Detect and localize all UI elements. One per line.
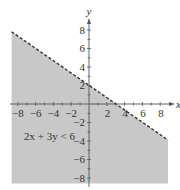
inequality-label: 2x + 3y < 6	[24, 130, 75, 142]
x-axis-label: x	[175, 98, 180, 110]
x-axis-arrow-icon	[169, 102, 175, 106]
x-tick-label: 8	[158, 107, 164, 119]
y-tick-label: −6	[73, 153, 85, 165]
y-axis-arrow-icon	[87, 18, 91, 24]
y-axis-label: y	[86, 5, 92, 17]
y-tick-label: −8	[73, 172, 85, 184]
inequality-graph: x −8 −6 −4 −2 2 4 6 8	[0, 0, 180, 190]
x-tick-label: 6	[140, 107, 146, 119]
x-tick-label: −6	[30, 107, 42, 119]
y-tick-label: 8	[80, 24, 86, 36]
x-tick-label: 4	[123, 107, 129, 119]
y-tick-label: 4	[80, 61, 86, 73]
y-tick-label: −2	[73, 116, 85, 128]
x-tick-label: 2	[105, 107, 111, 119]
y-tick-label: −4	[73, 135, 85, 147]
x-tick-label: −8	[12, 107, 24, 119]
y-tick-label: 6	[80, 42, 86, 54]
y-tick-label: 2	[80, 79, 86, 91]
x-tick-label: −4	[48, 107, 60, 119]
